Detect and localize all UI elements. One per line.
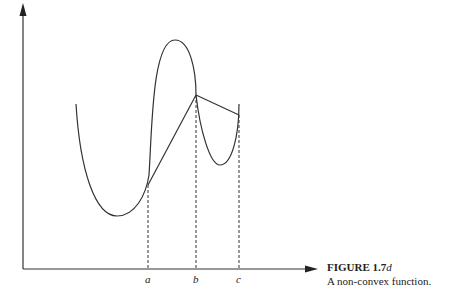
chord-a-b	[148, 95, 196, 185]
dashed-verticals	[148, 95, 239, 269]
y-axis-arrow-icon	[20, 3, 27, 16]
chords	[148, 95, 239, 185]
x-label-c: c	[236, 273, 241, 285]
chord-b-c	[196, 95, 239, 115]
caption-text: A non-convex function.	[327, 274, 431, 288]
x-label-b: b	[193, 273, 199, 285]
diagram-canvas	[0, 0, 455, 301]
x-label-a: a	[145, 273, 151, 285]
axes	[23, 8, 312, 269]
figure-caption: FIGURE 1.7d A non-convex function.	[327, 260, 431, 288]
caption-title-text: FIGURE 1.7	[327, 261, 386, 273]
caption-title-suffix: d	[386, 261, 392, 273]
caption-title: FIGURE 1.7d	[327, 260, 431, 274]
x-axis-arrow-icon	[305, 266, 318, 273]
non-convex-curve	[76, 40, 239, 216]
